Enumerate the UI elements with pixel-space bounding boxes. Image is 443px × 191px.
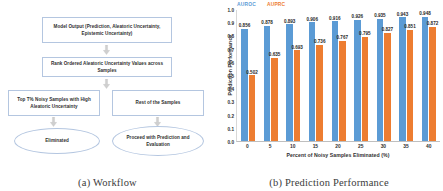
workflow-node-top-noisy-samples: Top T% Noisy Samples with High Aleatoric… bbox=[8, 90, 100, 116]
bar-auprc-35[interactable] bbox=[407, 30, 414, 141]
legend-label-auprc: AUPRC bbox=[267, 2, 285, 7]
workflow-node-proceed: Proceed with Prediction and Evaluation bbox=[112, 126, 204, 156]
bar-auprc-10[interactable] bbox=[294, 50, 301, 141]
bar-value-label: 0.827 bbox=[382, 27, 394, 32]
panel-prediction-performance: AUROC AUPRC Prediction Performance 1.00.… bbox=[215, 0, 443, 191]
bar-wrapper: 0.767 bbox=[339, 10, 346, 141]
bar-wrapper: 0.736 bbox=[316, 10, 323, 141]
bar-auroc-5[interactable] bbox=[264, 26, 271, 141]
y-axis-tick: 0.6 bbox=[218, 60, 234, 65]
bar-group: 0.9160.767 bbox=[327, 10, 350, 141]
x-axis-tick: 5 bbox=[259, 144, 282, 152]
x-axis-title: Percent of Noisy Samples Eliminated (%) bbox=[236, 152, 440, 158]
bar-wrapper: 0.856 bbox=[241, 10, 248, 141]
bar-auroc-40[interactable] bbox=[422, 17, 429, 141]
bar-value-label: 0.795 bbox=[359, 31, 371, 36]
bar-group: 0.9260.795 bbox=[350, 10, 373, 141]
figure-container: Model Output (Prediction, Aleatoric Unce… bbox=[0, 0, 443, 191]
bar-wrapper: 0.943 bbox=[399, 10, 406, 141]
y-axis-ticks: 1.00.90.80.70.60.50.40.30.20.10.0 bbox=[218, 10, 234, 142]
workflow-node-model-output: Model Output (Prediction, Aleatoric Unce… bbox=[42, 17, 172, 43]
bar-value-label: 0.767 bbox=[337, 35, 349, 40]
workflow-diagram: Model Output (Prediction, Aleatoric Unce… bbox=[0, 0, 215, 168]
bar-value-label: 0.851 bbox=[404, 24, 416, 29]
arrow-down-icon bbox=[50, 117, 57, 127]
chart-legend: AUROC AUPRC bbox=[237, 2, 285, 7]
workflow-node-rest-of-samples: Rest of the Samples bbox=[112, 90, 204, 116]
bar-wrapper: 0.872 bbox=[429, 10, 436, 141]
bar-wrapper: 0.906 bbox=[309, 10, 316, 141]
bar-auroc-25[interactable] bbox=[354, 20, 361, 141]
bar-group: 0.9480.872 bbox=[418, 10, 441, 141]
bar-value-label: 0.872 bbox=[427, 21, 439, 26]
y-axis-tick: 0.2 bbox=[218, 113, 234, 118]
y-axis-tick: 0.8 bbox=[218, 34, 234, 39]
bar-groups: 0.8560.5020.8780.6350.8930.6930.9060.736… bbox=[237, 10, 440, 141]
bar-wrapper: 0.502 bbox=[249, 10, 256, 141]
bar-group: 0.9350.827 bbox=[372, 10, 395, 141]
y-axis-tick: 0.5 bbox=[218, 74, 234, 79]
arrow-down-icon bbox=[103, 79, 110, 89]
y-axis-tick: 1.0 bbox=[218, 8, 234, 13]
bar-wrapper: 0.878 bbox=[264, 10, 271, 141]
bar-group: 0.9430.851 bbox=[395, 10, 418, 141]
x-axis-tick: 35 bbox=[395, 144, 418, 152]
bar-auroc-35[interactable] bbox=[399, 17, 406, 141]
bar-auprc-0[interactable] bbox=[249, 75, 256, 141]
bar-wrapper: 0.693 bbox=[294, 10, 301, 141]
x-axis-ticks: 0510152025303540 bbox=[236, 144, 440, 152]
bar-group: 0.8930.693 bbox=[282, 10, 305, 141]
plot-area: 0.8560.5020.8780.6350.8930.6930.9060.736… bbox=[236, 10, 440, 142]
bar-group: 0.8560.502 bbox=[237, 10, 260, 141]
bar-wrapper: 0.926 bbox=[354, 10, 361, 141]
y-axis-tick: 0.7 bbox=[218, 47, 234, 52]
bar-auroc-30[interactable] bbox=[377, 19, 384, 141]
x-axis-tick: 20 bbox=[327, 144, 350, 152]
bar-value-label: 0.736 bbox=[314, 39, 326, 44]
panel-workflow: Model Output (Prediction, Aleatoric Unce… bbox=[0, 0, 215, 191]
x-axis-tick: 10 bbox=[281, 144, 304, 152]
bar-wrapper: 0.635 bbox=[271, 10, 278, 141]
bar-chart: AUROC AUPRC Prediction Performance 1.00.… bbox=[215, 0, 443, 168]
bar-auprc-40[interactable] bbox=[429, 27, 436, 141]
x-axis-tick: 25 bbox=[349, 144, 372, 152]
bar-group: 0.8780.635 bbox=[260, 10, 283, 141]
panel-b-caption: (b) Prediction Performance bbox=[215, 177, 443, 188]
legend-label-auroc: AUROC bbox=[237, 2, 256, 7]
y-axis-tick: 0.1 bbox=[218, 126, 234, 131]
bar-auprc-15[interactable] bbox=[316, 45, 323, 141]
y-axis-tick: 0.4 bbox=[218, 87, 234, 92]
workflow-node-eliminated: Eliminated bbox=[14, 128, 100, 154]
bar-auprc-20[interactable] bbox=[339, 41, 346, 141]
y-axis-tick: 0.3 bbox=[218, 100, 234, 105]
bar-value-label: 0.635 bbox=[269, 52, 281, 57]
bar-wrapper: 0.916 bbox=[332, 10, 339, 141]
x-axis-tick: 15 bbox=[304, 144, 327, 152]
bar-value-label: 0.502 bbox=[246, 70, 258, 75]
bar-wrapper: 0.827 bbox=[384, 10, 391, 141]
workflow-node-rank-ordered: Rank Ordered Aleatoric Uncertainty Value… bbox=[42, 57, 172, 77]
bar-auprc-25[interactable] bbox=[362, 37, 369, 141]
x-axis-tick: 30 bbox=[372, 144, 395, 152]
legend-item-auroc: AUROC bbox=[237, 2, 256, 7]
y-axis-tick: 0.9 bbox=[218, 21, 234, 26]
bar-auroc-0[interactable] bbox=[241, 29, 248, 141]
bar-wrapper: 0.893 bbox=[286, 10, 293, 141]
bar-auprc-30[interactable] bbox=[384, 33, 391, 141]
arrow-down-icon bbox=[103, 45, 110, 55]
bar-value-label: 0.693 bbox=[291, 45, 303, 50]
x-axis-tick: 0 bbox=[236, 144, 259, 152]
bar-group: 0.9060.736 bbox=[305, 10, 328, 141]
legend-item-auprc: AUPRC bbox=[267, 2, 285, 7]
bar-wrapper: 0.948 bbox=[422, 10, 429, 141]
bar-auroc-10[interactable] bbox=[286, 24, 293, 141]
y-axis-tick: 0.0 bbox=[218, 140, 234, 145]
bar-wrapper: 0.795 bbox=[362, 10, 369, 141]
bar-auprc-5[interactable] bbox=[271, 58, 278, 141]
bar-wrapper: 0.851 bbox=[407, 10, 414, 141]
panel-a-caption: (a) Workflow bbox=[0, 177, 215, 188]
x-axis-tick: 40 bbox=[417, 144, 440, 152]
